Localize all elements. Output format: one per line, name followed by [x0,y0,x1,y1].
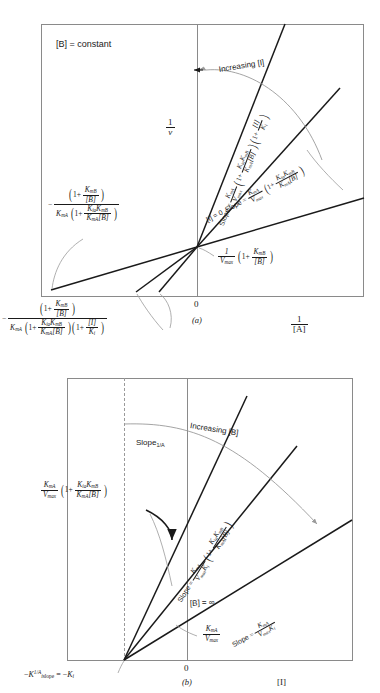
panel-b: Slope1/A [I] 0 (b) Increasing [B] [B] = … [0,348,380,693]
y-intercept-leader [199,248,214,256]
panel-a-condition-note: [B] = constant [56,40,111,49]
panel-a-x-axis-num: 1 [291,315,308,324]
panel-a-x-intercept-inhibited: − (1+ KmB [B] ) KmA (1+ KiaKmB KmA[B] )(… [2,300,107,337]
byi-gdb: [B] [88,490,98,499]
slope-uninhibited-leader [307,150,343,190]
panel-b-y-intercept-label: KmA Vmax (1+ KiaKmB KmA[B] ) [41,481,107,500]
axii-nbs: mB [61,302,68,308]
panel-b-plot [0,348,380,693]
panel-a-x-intercept-uninhibited: − (1+ KmB [B] ) KmA (1+ KiaKmB KmA[B] ) [48,186,119,223]
panel-b-caption: (b) [182,677,192,687]
panel-b-limit-intercept: KmA Vmax [203,625,220,644]
axiu-minus: − [48,201,52,209]
byi-gnbs: mB [91,483,98,489]
axii-g1nbs: mB [55,321,62,327]
bli-ns: mA [211,627,218,633]
panel-b-origin-label: 0 [184,664,189,673]
panel-a: [B] = constant 1 v 1 [A] 0 (a) Increasin… [0,0,380,348]
panel-b-saturating-label: [B] = ∞ [190,599,215,609]
panel-a-y-axis-den: v [166,127,175,137]
panel-a-x-axis-label: 1 [A] [291,315,308,335]
bxi-k2sub: i [73,673,75,679]
bli-ds: max [210,637,219,643]
panel-b-x-intercept-label: −K1/Aislope = −Ki [24,670,74,680]
slope-word-b1: Slope [176,584,191,603]
axiu-dgnbs: mB [101,207,108,213]
axiu-nbs: mB [90,188,97,194]
x-intercept-inhibited-leader-2 [160,294,171,328]
ayi-gns: mB [259,250,266,256]
axii-nc: [B] [56,309,66,318]
bxi-ksub2: slope [43,673,54,679]
panel-a-y-axis-label: 1 v [166,118,175,138]
panel-a-y-axis-num: 1 [166,118,175,127]
axiu-nc: [B] [85,195,95,204]
byi-lns: mA [49,483,56,489]
line-i-zero-ext [51,247,197,290]
panel-a-caption: (a) [192,315,202,325]
axii-g2n: [I] [88,318,96,327]
slope-word-b2: Slope [231,633,250,648]
line-i-mid-ext [136,247,197,292]
x-intercept-leader-b [118,661,124,673]
panel-b-y-axis-sub: 1/A [156,442,164,448]
zero-i-label: [I] = 0 [205,209,224,223]
slope-word-a2: Slope [224,199,243,214]
axiu-dls: mA [61,212,68,218]
ayi-gd: [B] [254,257,264,266]
panel-a-origin-label: 0 [194,300,199,309]
panel-a-y-intercept-label: 1 Vmax (1+ KmB [B] ) [218,248,274,266]
y-intercept-leader-2 [150,514,172,586]
axii-minus: − [2,315,6,323]
bxi-eq: = [56,670,61,679]
panel-b-y-axis-label: Slope1/A [136,439,165,448]
panel-a-plot [0,0,380,348]
panel-b-y-axis-word: Slope [136,438,156,447]
byi-lds: max [48,493,57,499]
panel-a-x-axis-den: [A] [291,324,308,334]
axii-dls: mA [15,326,22,332]
axii-g1db: [B] [52,327,62,336]
ayi-num: 1 [225,247,229,256]
x-intercept-inhibited-leader-1 [137,294,163,330]
axii-g2ds: i [94,330,95,336]
axiu-dgdb: [B] [98,213,108,222]
panel-b-x-axis-label: [I] [277,678,286,687]
ayi-den-sub: max [225,259,234,265]
line-i-high-ext [159,247,197,292]
